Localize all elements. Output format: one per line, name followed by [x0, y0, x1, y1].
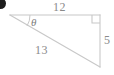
- side-label-hypotenuse: 13: [35, 44, 48, 56]
- triangle-side-hypotenuse: [10, 15, 100, 67]
- angle-label-theta: θ: [31, 16, 37, 28]
- side-label-top: 12: [53, 1, 66, 13]
- angle-arc-icon: [27, 15, 30, 26]
- triangle-figure: 12 5 13 θ: [0, 0, 114, 75]
- side-label-right: 5: [104, 34, 111, 46]
- right-angle-icon: [92, 15, 100, 23]
